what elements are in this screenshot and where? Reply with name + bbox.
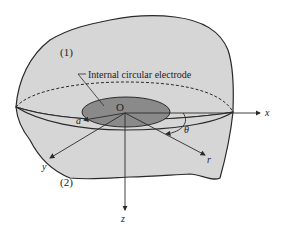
origin-label: O	[116, 101, 124, 113]
y-axis-label: y	[41, 161, 47, 172]
electrode-disk	[82, 97, 170, 127]
x-axis-label: x	[264, 107, 270, 118]
z-axis-label: z	[120, 213, 125, 224]
r-axis-label: r	[207, 154, 211, 165]
electrode-diagram: (1) (2) Internal circular electrode O a …	[0, 0, 283, 230]
theta-label: θ	[184, 124, 189, 135]
region-label-1: (1)	[60, 46, 73, 59]
callout-label: Internal circular electrode	[88, 69, 192, 80]
region-label-2: (2)	[60, 176, 73, 189]
radius-label: a	[76, 115, 81, 126]
